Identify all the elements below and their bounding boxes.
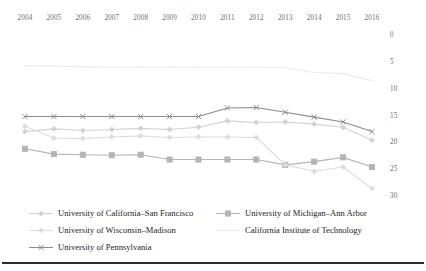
- x-tick-2016: 2016: [365, 14, 380, 22]
- y-tick-0: 0: [390, 31, 394, 39]
- series-marker: [51, 152, 56, 157]
- x-tick-2015: 2015: [336, 14, 351, 22]
- series-marker: [369, 129, 374, 134]
- series-marker: [51, 126, 56, 131]
- series-marker: [80, 128, 85, 133]
- series-marker: [254, 157, 259, 162]
- chart-legend: University of California–San FranciscoUn…: [0, 203, 426, 255]
- legend-label: University of Pennsylvania: [58, 242, 152, 253]
- x-tick-2013: 2013: [278, 14, 293, 22]
- legend-item[interactable]: University of Pennsylvania: [28, 241, 152, 254]
- chart-canvas: [0, 0, 426, 205]
- series-marker: [369, 164, 374, 169]
- y-tick-5: 5: [390, 58, 394, 66]
- series-marker: [196, 157, 201, 162]
- legend-swatch-icon: [215, 208, 241, 219]
- series-marker: [196, 125, 201, 130]
- x-tick-2007: 2007: [104, 14, 119, 22]
- x-tick-2006: 2006: [75, 14, 90, 22]
- series-marker: [225, 157, 230, 162]
- y-tick-30: 30: [390, 192, 397, 200]
- series-marker: [80, 136, 85, 141]
- series-marker: [138, 133, 143, 138]
- series-marker: [80, 152, 85, 157]
- series-marker: [109, 134, 114, 139]
- series-marker: [167, 127, 172, 132]
- series-marker: [196, 134, 201, 139]
- legend-marker: [225, 211, 230, 216]
- x-tick-2010: 2010: [191, 14, 206, 22]
- x-tick-2005: 2005: [47, 14, 62, 22]
- legend-swatch-icon: [215, 225, 241, 236]
- series-marker: [254, 120, 259, 125]
- series-marker: [312, 159, 317, 164]
- x-tick-2011: 2011: [220, 14, 235, 22]
- series-marker: [369, 138, 374, 143]
- legend-marker: [38, 211, 43, 216]
- legend-label: University of California–San Francisco: [58, 208, 193, 219]
- series-marker: [22, 124, 27, 129]
- legend-item[interactable]: University of Michigan–Ann Arbor: [215, 207, 367, 220]
- legend-label: California Institute of Technology: [245, 225, 362, 236]
- y-tick-25: 25: [390, 165, 397, 173]
- series-2: [22, 146, 374, 169]
- series-marker: [167, 135, 172, 140]
- series-marker: [167, 157, 172, 162]
- x-tick-2012: 2012: [249, 14, 264, 22]
- series-marker: [22, 129, 27, 134]
- series-marker: [312, 169, 317, 174]
- legend-item[interactable]: University of California–San Francisco: [28, 207, 193, 220]
- legend-marker: [38, 228, 43, 233]
- legend-item[interactable]: California Institute of Technology: [215, 224, 362, 237]
- series-marker: [340, 155, 345, 160]
- legend-swatch-icon: [28, 208, 54, 219]
- series-marker: [340, 125, 345, 130]
- legend-swatch-icon: [28, 242, 54, 253]
- bottom-divider: [2, 262, 424, 264]
- x-tick-2004: 2004: [18, 14, 33, 22]
- series-marker: [225, 134, 230, 139]
- legend-label: University of Wisconsin–Madison: [58, 225, 176, 236]
- series-marker: [283, 119, 288, 124]
- series-marker: [138, 126, 143, 131]
- legend-swatch-icon: [28, 225, 54, 236]
- chart-figure: 2004200520062007200820092010201120122013…: [0, 0, 426, 271]
- x-tick-2008: 2008: [133, 14, 148, 22]
- series-marker: [109, 127, 114, 132]
- y-tick-20: 20: [390, 138, 397, 146]
- series-marker: [225, 118, 230, 123]
- series-marker: [138, 152, 143, 157]
- series-marker: [22, 146, 27, 151]
- series-line: [25, 66, 372, 81]
- legend-item[interactable]: University of Wisconsin–Madison: [28, 224, 176, 237]
- y-tick-10: 10: [390, 85, 397, 93]
- x-tick-2009: 2009: [162, 14, 177, 22]
- series-4: [23, 66, 373, 81]
- y-tick-15: 15: [390, 112, 397, 120]
- legend-label: University of Michigan–Ann Arbor: [245, 208, 367, 219]
- series-marker: [312, 121, 317, 126]
- x-tick-2014: 2014: [307, 14, 322, 22]
- plot-area: 2004200520062007200820092010201120122013…: [0, 0, 426, 205]
- series-marker: [51, 135, 56, 140]
- series-marker: [109, 153, 114, 158]
